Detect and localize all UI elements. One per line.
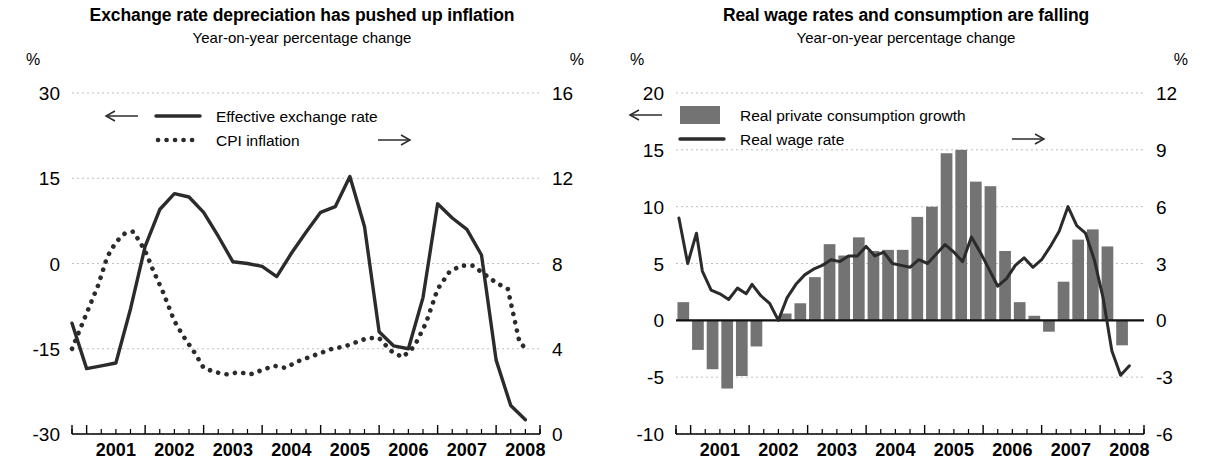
bar <box>955 150 967 320</box>
left-axis-tick-label: 0 <box>653 310 664 331</box>
bar <box>794 303 806 320</box>
bar <box>1058 282 1070 321</box>
x-axis-year-label: 2001 <box>96 440 136 460</box>
panel-exchange-rate-cpi: Exchange rate depreciation has pushed up… <box>0 0 604 466</box>
bar <box>707 320 719 369</box>
x-axis-year-label: 2004 <box>875 440 915 460</box>
figure-sheet: Exchange rate depreciation has pushed up… <box>0 0 1208 466</box>
bar <box>677 302 689 320</box>
right-axis-tick-label: 0 <box>1156 310 1167 331</box>
right-axis-tick-label: 12 <box>552 168 573 189</box>
legend-swatch-bar <box>680 106 720 124</box>
x-axis-year-label: 2003 <box>817 440 857 460</box>
right-axis-tick-label: -6 <box>1156 424 1173 445</box>
bar <box>985 186 997 320</box>
panel-real-wage-consumption: Real wage rates and consumption are fall… <box>604 0 1208 466</box>
bar <box>736 320 748 376</box>
right-axis-tick-label: -3 <box>1156 367 1173 388</box>
x-axis-year-label: 2008 <box>1109 440 1149 460</box>
left-axis-tick-label: -10 <box>637 424 664 445</box>
bar <box>897 250 909 320</box>
x-axis-year-label: 2008 <box>505 440 545 460</box>
left-axis-tick-label: 0 <box>49 254 60 275</box>
x-axis-year-label: 2006 <box>992 440 1032 460</box>
x-axis-year-label: 2007 <box>1051 440 1091 460</box>
left-axis-unit: % <box>26 51 40 68</box>
left-axis-tick-label: 5 <box>653 254 664 275</box>
x-axis-year-label: 2007 <box>447 440 487 460</box>
x-axis-year-label: 2005 <box>934 440 974 460</box>
bar <box>751 320 763 346</box>
bar <box>809 277 821 320</box>
left-axis-tick-label: 15 <box>39 168 60 189</box>
left-axis-tick-label: 10 <box>643 197 664 218</box>
right-axis-tick-label: 0 <box>552 424 563 445</box>
bar <box>1116 320 1128 345</box>
right-axis-tick-label: 3 <box>1156 254 1167 275</box>
left-axis-unit: % <box>630 51 644 68</box>
bar <box>941 153 953 320</box>
x-axis-year-label: 2003 <box>213 440 253 460</box>
right-axis-tick-label: 6 <box>1156 197 1167 218</box>
x-axis-year-label: 2005 <box>330 440 370 460</box>
right-axis-tick-label: 4 <box>552 339 563 360</box>
right-axis-tick-label: 12 <box>1156 83 1177 104</box>
bar <box>838 256 850 321</box>
x-axis-year-label: 2004 <box>271 440 311 460</box>
x-axis-year-label: 2002 <box>758 440 798 460</box>
legend-label-1: CPI inflation <box>216 132 300 149</box>
x-axis-year-label: 2001 <box>700 440 740 460</box>
left-axis-tick-label: -15 <box>33 339 60 360</box>
bar <box>824 244 836 320</box>
legend-label-0: Real private consumption growth <box>740 107 966 124</box>
right-axis-unit: % <box>570 51 584 68</box>
right-axis-tick-label: 8 <box>552 254 563 275</box>
left-axis-tick-label: 15 <box>643 140 664 161</box>
bar <box>692 320 704 350</box>
bar <box>868 251 880 320</box>
bar <box>1014 302 1026 320</box>
bar <box>1043 320 1055 331</box>
x-axis-year-label: 2006 <box>388 440 428 460</box>
bar <box>721 320 733 388</box>
left-axis-tick-label: 30 <box>39 83 60 104</box>
chart-left: %-30-1501530%048121620012002200320042005… <box>0 0 604 466</box>
series-line-solid <box>72 177 525 420</box>
right-axis-tick-label: 16 <box>552 83 573 104</box>
bar <box>911 217 923 320</box>
bar <box>1072 240 1084 321</box>
bar <box>1102 246 1114 320</box>
left-axis-tick-label: -5 <box>647 367 664 388</box>
bar <box>999 251 1011 320</box>
left-axis-tick-label: 20 <box>643 83 664 104</box>
bar <box>882 250 894 320</box>
x-axis-year-label: 2002 <box>154 440 194 460</box>
right-axis-unit: % <box>1174 51 1188 68</box>
series-line-dotted <box>72 232 528 375</box>
chart-right: %-10-505101520%-6-3036912200120022003200… <box>604 0 1208 466</box>
left-axis-tick-label: -30 <box>33 424 60 445</box>
legend-label-0: Effective exchange rate <box>216 108 378 125</box>
right-axis-tick-label: 9 <box>1156 140 1167 161</box>
legend-label-1: Real wage rate <box>740 131 844 148</box>
